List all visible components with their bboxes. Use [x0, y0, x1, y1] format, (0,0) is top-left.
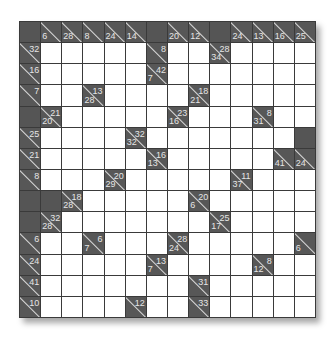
entry-cell[interactable]: [62, 85, 82, 105]
entry-cell[interactable]: [62, 107, 82, 127]
entry-cell[interactable]: [253, 233, 273, 253]
entry-cell[interactable]: [274, 297, 294, 317]
entry-cell[interactable]: [210, 149, 230, 169]
entry-cell[interactable]: [41, 128, 61, 148]
entry-cell[interactable]: [253, 128, 273, 148]
entry-cell[interactable]: [189, 255, 209, 275]
entry-cell[interactable]: [168, 43, 188, 63]
entry-cell[interactable]: [295, 107, 315, 127]
entry-cell[interactable]: [62, 276, 82, 296]
entry-cell[interactable]: [295, 85, 315, 105]
entry-cell[interactable]: [147, 170, 167, 190]
entry-cell[interactable]: [189, 107, 209, 127]
entry-cell[interactable]: [210, 255, 230, 275]
entry-cell[interactable]: [147, 191, 167, 211]
entry-cell[interactable]: [105, 297, 125, 317]
entry-cell[interactable]: [274, 43, 294, 63]
entry-cell[interactable]: [126, 107, 146, 127]
entry-cell[interactable]: [83, 212, 103, 232]
entry-cell[interactable]: [189, 170, 209, 190]
entry-cell[interactable]: [189, 128, 209, 148]
entry-cell[interactable]: [105, 64, 125, 84]
entry-cell[interactable]: [41, 233, 61, 253]
entry-cell[interactable]: [295, 255, 315, 275]
entry-cell[interactable]: [126, 255, 146, 275]
entry-cell[interactable]: [105, 276, 125, 296]
entry-cell[interactable]: [83, 43, 103, 63]
entry-cell[interactable]: [253, 43, 273, 63]
entry-cell[interactable]: [168, 297, 188, 317]
entry-cell[interactable]: [147, 233, 167, 253]
entry-cell[interactable]: [231, 276, 251, 296]
entry-cell[interactable]: [295, 170, 315, 190]
entry-cell[interactable]: [83, 297, 103, 317]
entry-cell[interactable]: [253, 191, 273, 211]
entry-cell[interactable]: [274, 64, 294, 84]
entry-cell[interactable]: [126, 85, 146, 105]
entry-cell[interactable]: [231, 85, 251, 105]
entry-cell[interactable]: [231, 43, 251, 63]
entry-cell[interactable]: [168, 255, 188, 275]
entry-cell[interactable]: [147, 128, 167, 148]
entry-cell[interactable]: [295, 64, 315, 84]
entry-cell[interactable]: [274, 233, 294, 253]
entry-cell[interactable]: [41, 255, 61, 275]
entry-cell[interactable]: [253, 85, 273, 105]
entry-cell[interactable]: [210, 191, 230, 211]
entry-cell[interactable]: [126, 170, 146, 190]
entry-cell[interactable]: [189, 64, 209, 84]
entry-cell[interactable]: [62, 170, 82, 190]
entry-cell[interactable]: [62, 212, 82, 232]
entry-cell[interactable]: [126, 149, 146, 169]
entry-cell[interactable]: [147, 276, 167, 296]
entry-cell[interactable]: [105, 212, 125, 232]
entry-cell[interactable]: [274, 170, 294, 190]
entry-cell[interactable]: [253, 276, 273, 296]
entry-cell[interactable]: [189, 43, 209, 63]
entry-cell[interactable]: [231, 128, 251, 148]
entry-cell[interactable]: [295, 297, 315, 317]
entry-cell[interactable]: [41, 170, 61, 190]
entry-cell[interactable]: [126, 64, 146, 84]
entry-cell[interactable]: [231, 297, 251, 317]
entry-cell[interactable]: [274, 107, 294, 127]
entry-cell[interactable]: [105, 149, 125, 169]
entry-cell[interactable]: [147, 85, 167, 105]
entry-cell[interactable]: [168, 191, 188, 211]
entry-cell[interactable]: [62, 43, 82, 63]
entry-cell[interactable]: [41, 149, 61, 169]
entry-cell[interactable]: [295, 212, 315, 232]
entry-cell[interactable]: [147, 297, 167, 317]
entry-cell[interactable]: [147, 107, 167, 127]
entry-cell[interactable]: [253, 297, 273, 317]
entry-cell[interactable]: [83, 64, 103, 84]
entry-cell[interactable]: [210, 85, 230, 105]
entry-cell[interactable]: [105, 233, 125, 253]
entry-cell[interactable]: [210, 233, 230, 253]
entry-cell[interactable]: [189, 212, 209, 232]
entry-cell[interactable]: [274, 255, 294, 275]
entry-cell[interactable]: [210, 170, 230, 190]
entry-cell[interactable]: [126, 233, 146, 253]
entry-cell[interactable]: [210, 297, 230, 317]
entry-cell[interactable]: [295, 43, 315, 63]
entry-cell[interactable]: [83, 149, 103, 169]
entry-cell[interactable]: [189, 233, 209, 253]
entry-cell[interactable]: [253, 64, 273, 84]
entry-cell[interactable]: [168, 64, 188, 84]
entry-cell[interactable]: [274, 212, 294, 232]
entry-cell[interactable]: [168, 170, 188, 190]
entry-cell[interactable]: [83, 128, 103, 148]
entry-cell[interactable]: [83, 191, 103, 211]
entry-cell[interactable]: [83, 170, 103, 190]
entry-cell[interactable]: [231, 212, 251, 232]
entry-cell[interactable]: [105, 107, 125, 127]
entry-cell[interactable]: [62, 233, 82, 253]
entry-cell[interactable]: [253, 149, 273, 169]
entry-cell[interactable]: [168, 85, 188, 105]
entry-cell[interactable]: [210, 276, 230, 296]
entry-cell[interactable]: [231, 191, 251, 211]
entry-cell[interactable]: [62, 128, 82, 148]
entry-cell[interactable]: [231, 255, 251, 275]
entry-cell[interactable]: [231, 149, 251, 169]
